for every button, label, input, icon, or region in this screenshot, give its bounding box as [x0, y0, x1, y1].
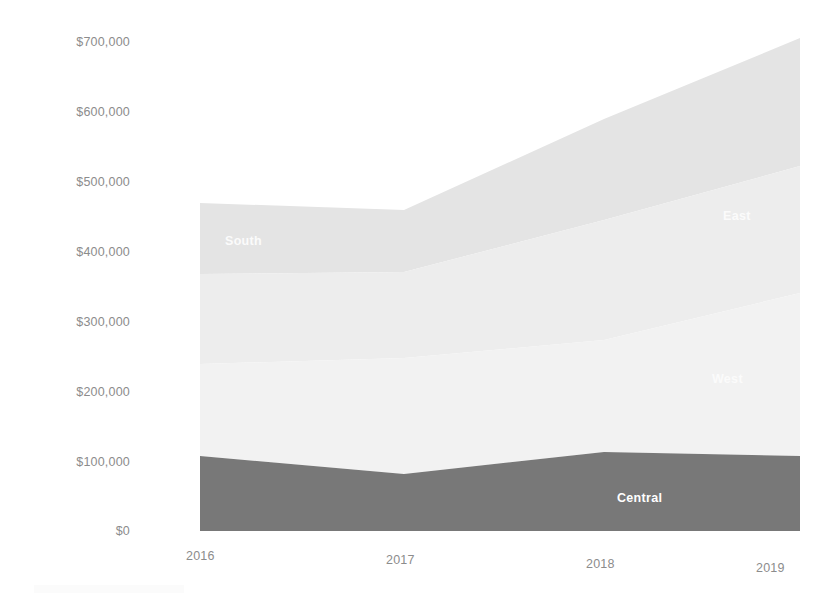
x-axis: 2016 2017 2018 2019 — [0, 0, 832, 597]
bottom-edge-artifact — [34, 585, 184, 593]
x-tick-label-2016: 2016 — [186, 550, 215, 563]
x-tick-label-2019: 2019 — [756, 562, 785, 575]
x-tick-label-2017: 2017 — [386, 554, 415, 567]
stacked-area-chart: South East West Central $700,000 $600,00… — [0, 0, 832, 597]
x-tick-label-2018: 2018 — [586, 558, 615, 571]
